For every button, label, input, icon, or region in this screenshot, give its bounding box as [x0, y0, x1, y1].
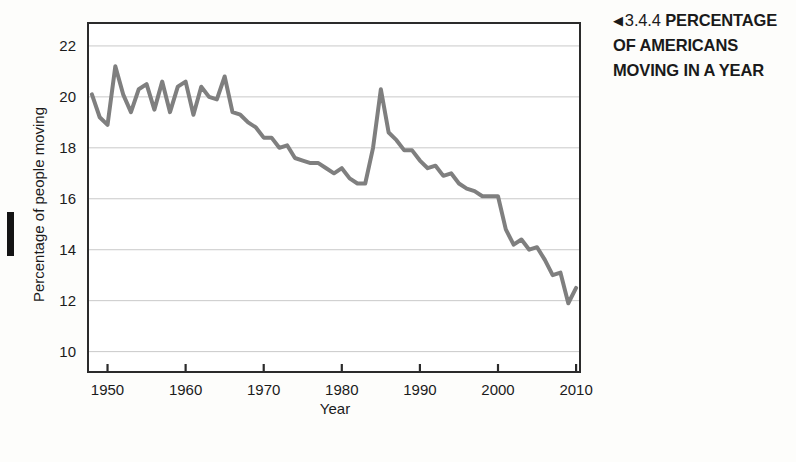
x-tick-label: 1950 — [78, 381, 138, 398]
plot-background — [88, 23, 580, 372]
left-triangle-icon: ◀ — [613, 13, 623, 28]
caption-number: 3.4.4 — [625, 11, 661, 29]
line-chart — [0, 0, 600, 400]
caption-title-line-3: MOVING IN A YEAR — [613, 61, 764, 79]
x-tick-label: 1990 — [390, 381, 450, 398]
y-tick-label: 22 — [42, 37, 76, 54]
figure-caption: ◀3.4.4 PERCENTAGE OF AMERICANS MOVING IN… — [613, 8, 791, 83]
y-tick-label: 16 — [42, 190, 76, 207]
x-tick-label: 1980 — [312, 381, 372, 398]
caption-title-line-2: OF AMERICANS — [613, 36, 738, 54]
x-tick-label: 1960 — [156, 381, 216, 398]
x-axis-title: Year — [245, 400, 425, 417]
x-tick-label: 2000 — [468, 381, 528, 398]
y-tick-label: 18 — [42, 139, 76, 156]
caption-title-line-1: PERCENTAGE — [665, 11, 777, 29]
x-tick-label: 2010 — [546, 381, 606, 398]
y-tick-label: 12 — [42, 292, 76, 309]
y-tick-label: 14 — [42, 241, 76, 258]
chart-figure: 10121416182022 1950196019701980199020002… — [0, 0, 600, 462]
caption-text: ◀3.4.4 PERCENTAGE OF AMERICANS MOVING IN… — [613, 8, 791, 83]
x-tick-label: 1970 — [234, 381, 294, 398]
y-tick-label: 20 — [42, 88, 76, 105]
y-tick-label: 10 — [42, 343, 76, 360]
y-axis-title: Percentage of people moving — [30, 95, 47, 315]
